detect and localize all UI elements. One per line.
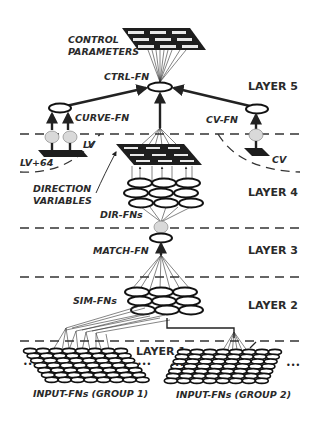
control-parameters-label-2: PARAMETERS [68,46,139,57]
lv64-label: LV+64 [20,157,54,168]
lv-grid [38,150,88,157]
layer-2-label: LAYER 2 [248,299,298,312]
curve-to-ctrl-edge [66,88,146,106]
network-diagram: LAYER 5 LAYER 4 LAYER 3 LAYER 2 LAYER 1 … [0,0,321,423]
cv-fn-label: CV-FN [206,114,238,125]
group2-to-sim-wire [167,318,234,338]
direction-variables-pointer [96,152,116,193]
input-fns-group-1-label: INPUT-FNs (GROUP 1) [33,388,148,399]
layer-4-label: LAYER 4 [248,186,298,199]
group2-more-right: ••• [286,361,300,370]
group2-tick [250,342,256,348]
cv-label: CV [272,154,287,165]
layer-5-label: LAYER 5 [248,80,298,93]
match-fn-node [150,234,172,243]
lv-bulb [63,131,77,143]
cv-to-ctrl-edge [174,88,250,106]
lv64-bulb [45,131,59,143]
dir-fns-cluster [124,179,203,208]
input-fns-group-2-label: INPUT-FNs (GROUP 2) [176,389,291,400]
layer-3-label: LAYER 3 [248,244,298,257]
direction-fan [140,128,178,146]
match-fn-label: MATCH-FN [93,245,149,256]
direction-variables-grid [116,144,202,165]
sim-to-match-fan [132,255,190,289]
dir-fns-label: DIR-FNs [100,209,143,220]
curve-fn-label: CURVE-FN [75,112,129,123]
cv-grid [244,148,270,156]
direction-variables-label-1: DIRECTION [33,183,91,194]
match-output-bulb [154,221,168,233]
lv-label: LV [83,139,96,150]
cv-bulb [249,129,263,141]
ctrl-fn-node [148,83,172,92]
group1-more-left: ••• [23,360,37,369]
control-parameters-fan [148,50,186,82]
ctrl-fn-label: CTRL-FN [104,71,149,82]
direction-variables-label-2: VARIABLES [33,195,92,206]
group1-more-right: ••• [137,360,151,369]
control-parameters-label-1: CONTROL [68,34,119,45]
group2-more-left: ••• [170,361,184,370]
sim-fns-label: SIM-FNs [73,295,117,306]
cv-fn-node [246,105,268,114]
curve-fn-node [49,104,71,113]
input-fns-group-1-grid [24,348,150,382]
match-to-dir-fan [141,207,191,222]
